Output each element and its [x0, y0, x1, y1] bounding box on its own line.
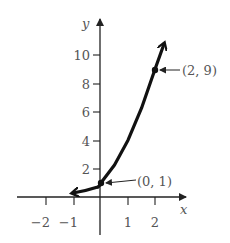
curve — [98, 44, 164, 187]
x-tick-label: 1 — [124, 215, 132, 230]
x-tick-label: −2 — [31, 215, 50, 230]
x-tick-label: −1 — [59, 215, 78, 230]
x-axis-label: x — [180, 202, 188, 217]
y-tick-label: 2 — [82, 162, 90, 177]
y-tick-label: 4 — [82, 134, 90, 149]
y-tick-label: 8 — [82, 77, 90, 92]
y-tick-label: 6 — [82, 105, 90, 120]
curve — [73, 187, 98, 193]
y-ticks — [93, 55, 100, 169]
annotation-label-0-1: (0, 1) — [137, 174, 172, 189]
point-0-1 — [98, 180, 104, 186]
y-axis-label: y — [81, 16, 90, 31]
x-tick-label: 2 — [151, 215, 159, 230]
annotation-arrow — [106, 180, 136, 183]
annotation-label-2-9: (2, 9) — [182, 63, 217, 78]
graph: −2 −1 1 2 2 4 6 8 10 x y (0, 1) (2, 9) — [0, 0, 230, 243]
point-2-9 — [152, 67, 158, 73]
y-tick-label: 10 — [73, 48, 90, 63]
